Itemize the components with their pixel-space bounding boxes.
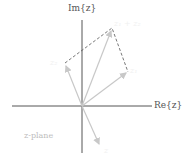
lower-vector-label: z xyxy=(104,146,108,155)
vector-lower xyxy=(82,106,99,144)
z1-label: z₁ xyxy=(130,66,137,75)
plane-label: z-plane xyxy=(24,131,53,140)
z2-label: z₂ xyxy=(50,58,57,67)
real-axis-label: Re{z} xyxy=(154,100,182,110)
imag-axis-label: Im{z} xyxy=(68,3,96,13)
vector-z2 xyxy=(66,66,82,106)
parallelogram-dashed xyxy=(65,28,128,72)
sum-label: z₁ + z₂ xyxy=(114,19,141,28)
